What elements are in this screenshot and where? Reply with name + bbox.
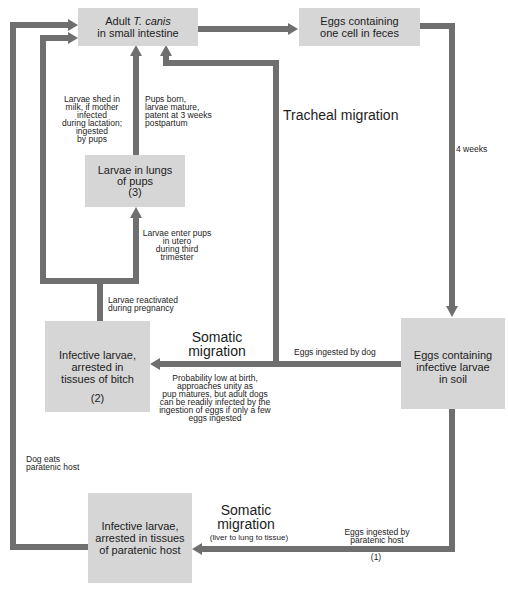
arrow-segment [163,56,169,66]
arrowhead-right-icon [288,23,298,35]
node-text-line: of pups [117,176,153,187]
arrowhead-right-icon [68,19,78,31]
arrow-segment [10,544,88,550]
node-text-line: of paratenic host [99,544,180,556]
label-line: migration [201,517,291,531]
arrow-segment [198,26,288,32]
arrow-segment [449,23,455,306]
label-line: Somatic [201,503,291,517]
label-line: postpartum [145,119,212,127]
label-line: migration [172,344,262,358]
node-adult-line2: in small intestine [97,27,178,39]
label-reactivated: Larvae reactivated during pregnancy [108,296,178,312]
arrow-segment [40,278,139,284]
arrow-segment [160,361,401,367]
arrow-segment [40,35,46,284]
arrowhead-left-icon [150,358,160,370]
node-number: (3) [128,187,141,198]
label-eggs-ingested-by-dog: Eggs ingested by dog [294,348,376,356]
label-probability: Probability low at birth, approaches uni… [145,374,285,422]
label-line: trimester [132,253,222,261]
label-line: Somatic [172,330,262,344]
node-soil: Eggs containing infective larvae in soil [401,318,505,409]
node-pups-lungs: Larvae in lungs of pups (3) [85,155,185,207]
node-bitch: Infective larvae, arrested in tissues of… [45,321,150,412]
arrow-segment [449,409,455,552]
arrow-segment [273,60,279,364]
arrow-segment [163,60,279,66]
label-four-weeks: 4 weeks [456,145,487,153]
life-cycle-diagram: Adult T. canis in small intestine Eggs c… [0,0,508,589]
node-text-line: Infective larvae, [59,349,136,361]
label-tracheal-migration: Tracheal migration [283,108,398,122]
arrowhead-left-icon [192,543,202,555]
label-line: by pups [47,135,137,143]
node-text-line: Eggs containing [414,349,492,361]
label-milk: Larvae shed in milk, if mother infected … [47,95,137,143]
arrow-segment [40,35,68,41]
node-paratenic-host: Infective larvae, arrested in tissues of… [88,493,192,583]
arrowhead-down-icon [446,306,458,317]
node-eggs-feces: Eggs containing one cell in feces [299,8,420,46]
arrowhead-up-icon [160,45,172,56]
label-pups-born: Pups born, larvae mature, patent at 3 we… [145,95,212,127]
arrow-segment [10,22,16,550]
node-adult-line1: Adult T. canis [105,15,171,27]
label-somatic-migration-bottom: Somatic migration [201,503,291,531]
node-text-line: in soil [439,373,467,385]
label-in-utero: Larvae enter pups in utero during third … [132,229,222,261]
label-dog-eats-paratenic-host: Dog eats paratenic host [26,455,79,471]
node-text-line: arrested in tissues [95,532,184,544]
arrowhead-right-icon [68,32,78,44]
label-eggs-ingested-by-paratenic-host: Eggs ingested by paratenic host [332,528,422,544]
node-text-line: infective larvae [416,361,489,373]
node-text-line: arrested in [72,361,124,373]
node-number: (2) [91,392,104,404]
node-text-line: Infective larvae, [101,520,178,532]
node-adult-species: T. canis [133,15,171,27]
arrowhead-up-icon [130,45,142,56]
node-text-line: one cell in feces [320,27,399,39]
arrow-segment [202,546,455,552]
node-adult-prefix: Adult [105,15,130,27]
label-line: eggs ingested [145,414,285,422]
node-text-line: Eggs containing [320,15,398,27]
node-text-line: tissues of bitch [61,373,134,385]
arrowhead-up-icon [130,207,142,218]
label-line: paratenic host [332,536,422,544]
label-path-number-one: (1) [361,553,391,561]
label-line: paratenic host [26,463,79,471]
arrow-segment [97,278,103,321]
label-liver-to-lung: (liver to lung to tissue) [199,534,299,542]
label-line: during pregnancy [108,304,178,312]
label-somatic-migration-top: Somatic migration [172,330,262,358]
node-adult: Adult T. canis in small intestine [78,8,198,46]
arrow-segment [10,22,68,28]
node-text-line: Larvae in lungs [98,165,173,176]
